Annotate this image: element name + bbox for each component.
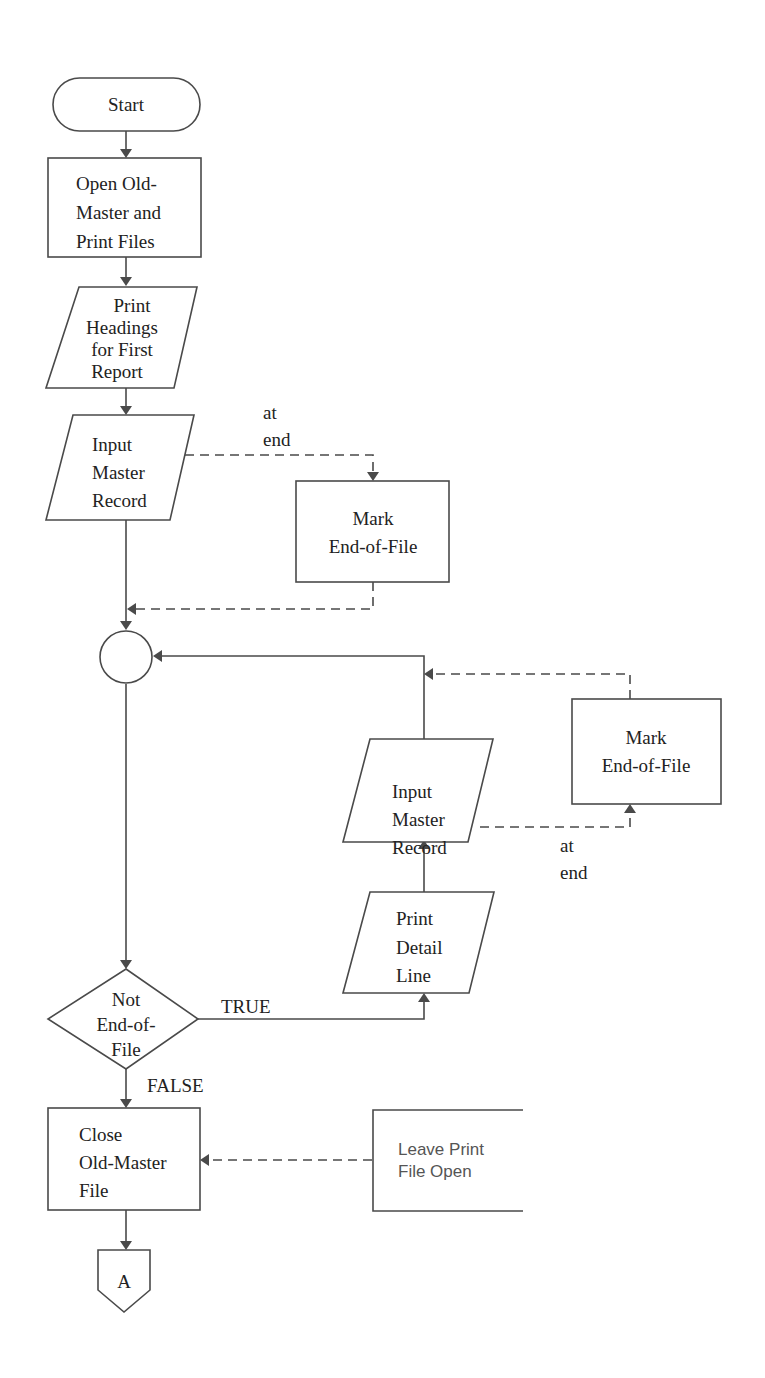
arrowhead: [120, 1099, 132, 1108]
mark-eof-2-line-1: Mark: [625, 727, 667, 748]
mark-eof-2-line-2: End-of-File: [602, 755, 691, 776]
arrowhead: [120, 277, 132, 286]
open-files-line-3: Print Files: [76, 231, 155, 252]
arrowhead: [120, 960, 132, 969]
arrowhead: [120, 149, 132, 158]
print-headings-line-2: Headings: [86, 317, 158, 338]
print-headings-line-3: for First: [91, 339, 153, 360]
close-old-master-process: Close Old-Master File: [48, 1108, 200, 1210]
decision-line-2: End-of-: [96, 1014, 155, 1035]
start-terminal: Start: [53, 78, 200, 131]
input-master-2-line-2: Master: [392, 809, 445, 830]
print-detail-line-2: Detail: [396, 937, 442, 958]
arrowhead: [120, 621, 132, 630]
arrowhead: [200, 1154, 209, 1166]
edge-input2-connector: [162, 656, 424, 739]
print-detail-line-io: Print Detail Line: [343, 892, 494, 993]
close-master-line-1: Close: [79, 1124, 122, 1145]
open-files-line-1: Open Old-: [76, 173, 157, 194]
at-end-label-1-line-1: at: [263, 402, 277, 423]
mark-eof-2-process: Mark End-of-File: [572, 699, 721, 804]
offpage-connector-a: A: [98, 1250, 150, 1312]
print-headings-line-4: Report: [91, 361, 143, 382]
open-files-line-2: Master and: [76, 202, 161, 223]
input-master-1-line-2: Master: [92, 462, 145, 483]
at-end-label-2-line-1: at: [560, 835, 574, 856]
leave-print-file-open-annotation: Leave Print File Open: [373, 1110, 523, 1211]
input-master-2-line-3: Record: [392, 837, 447, 858]
edge-input1-markeof1: [185, 455, 373, 473]
arrowhead: [120, 1241, 132, 1250]
input-master-1-line-1: Input: [92, 434, 133, 455]
arrowhead: [624, 804, 636, 813]
open-files-process: Open Old- Master and Print Files: [48, 158, 201, 257]
flowchart: Start Open Old- Master and Print Files P…: [0, 0, 765, 1378]
start-label: Start: [108, 94, 145, 115]
edge-input2-markeof2: [480, 812, 630, 827]
edge-markeof2-loop: [433, 674, 630, 699]
false-label: FALSE: [147, 1075, 204, 1096]
input-master-record-2-io: Input Master Record: [343, 739, 493, 858]
arrowhead: [418, 993, 430, 1002]
print-detail-line-1: Print: [396, 908, 434, 929]
print-headings-io: Print Headings for First Report: [46, 287, 197, 388]
offpage-connector-label: A: [117, 1271, 131, 1292]
arrowhead: [424, 668, 433, 680]
at-end-label-2-line-2: end: [560, 862, 588, 883]
input-master-2-line-1: Input: [392, 781, 433, 802]
input-master-1-line-3: Record: [92, 490, 147, 511]
close-master-line-3: File: [79, 1180, 109, 1201]
print-headings-line-1: Print: [114, 295, 152, 316]
decision-line-1: Not: [112, 989, 141, 1010]
print-detail-line-3: Line: [396, 965, 431, 986]
annotation-line-1: Leave Print: [398, 1140, 484, 1159]
arrowhead: [367, 472, 379, 481]
input-master-record-1-io: Input Master Record: [46, 415, 194, 520]
at-end-label-1-line-2: end: [263, 429, 291, 450]
mark-eof-1-line-1: Mark: [352, 508, 394, 529]
connector-circle: [100, 631, 152, 683]
annotation-line-2: File Open: [398, 1162, 472, 1181]
true-label: TRUE: [221, 996, 271, 1017]
not-eof-decision: Not End-of- File: [48, 969, 198, 1069]
edge-markeof1-connector: [136, 582, 373, 609]
mark-eof-1-process: Mark End-of-File: [296, 481, 449, 582]
close-master-line-2: Old-Master: [79, 1152, 167, 1173]
decision-line-3: File: [111, 1039, 141, 1060]
arrowhead: [153, 650, 162, 662]
mark-eof-1-line-2: End-of-File: [329, 536, 418, 557]
arrowhead: [127, 603, 136, 615]
arrowhead: [120, 406, 132, 415]
